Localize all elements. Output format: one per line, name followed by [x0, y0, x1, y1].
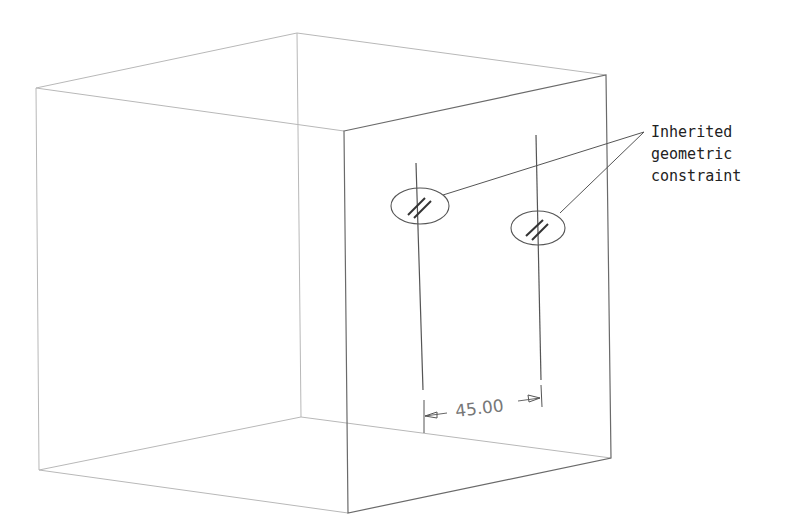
ellipse-left [391, 188, 449, 224]
front-face [344, 75, 611, 513]
edge-back-vertical [297, 33, 301, 417]
cad-viewport: Inherited geometric constraint 45.00 [0, 0, 803, 532]
axis-left [416, 163, 423, 390]
leader-lines [443, 132, 644, 213]
parallel-icon-stroke-1 [526, 220, 543, 236]
callout-annotation: Inherited geometric constraint [651, 123, 741, 185]
extension-line-right [541, 385, 542, 407]
parallel-icon-stroke-2 [532, 224, 548, 240]
dimension-value: 45.00 [454, 395, 505, 421]
edge-top-back-right [297, 33, 606, 75]
edge-left-vertical [36, 88, 39, 470]
constraint-symbol-left[interactable] [391, 188, 449, 224]
parallel-icon-stroke-2 [414, 201, 431, 218]
edge-bottom-back-left [39, 417, 301, 470]
dimension-45[interactable]: 45.00 [424, 385, 542, 433]
parallel-icon-stroke-1 [408, 198, 425, 215]
axis-right [536, 135, 541, 380]
edge-top-back-left [36, 33, 297, 88]
cube-wireframe [36, 33, 611, 513]
edge-bottom-front-left [39, 470, 348, 513]
